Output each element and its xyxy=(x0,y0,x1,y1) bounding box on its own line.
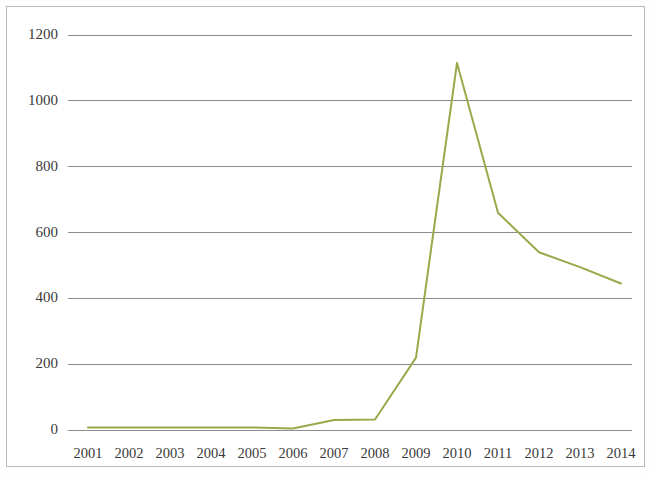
axis-lines xyxy=(68,25,632,430)
x-tick-label: 2001 xyxy=(66,446,110,461)
x-tick-label: 2002 xyxy=(107,446,151,461)
x-tick-label: 2010 xyxy=(435,446,479,461)
data-series xyxy=(88,63,621,428)
y-tick-label: 800 xyxy=(14,159,58,174)
x-tick-label: 2012 xyxy=(517,446,561,461)
x-tick-label: 2005 xyxy=(230,446,274,461)
y-tick-label: 600 xyxy=(14,225,58,240)
chart-canvas xyxy=(0,0,651,477)
x-tick-label: 2009 xyxy=(394,446,438,461)
x-tick-label: 2013 xyxy=(558,446,602,461)
y-tick-label: 400 xyxy=(14,290,58,305)
series-line-1 xyxy=(88,63,621,428)
x-tick-label: 2008 xyxy=(353,446,397,461)
line-chart: 020040060080010001200 200120022003200420… xyxy=(0,0,651,477)
y-tick-label: 0 xyxy=(14,422,58,437)
x-tick-label: 2006 xyxy=(271,446,315,461)
y-tick-label: 200 xyxy=(14,356,58,371)
x-tick-label: 2007 xyxy=(312,446,356,461)
y-tick-label: 1000 xyxy=(14,93,58,108)
x-tick-label: 2011 xyxy=(476,446,520,461)
y-tick-label: 1200 xyxy=(14,27,58,42)
x-tick-label: 2014 xyxy=(599,446,643,461)
x-tick-label: 2004 xyxy=(189,446,233,461)
gridlines xyxy=(68,35,632,364)
x-tick-label: 2003 xyxy=(148,446,192,461)
